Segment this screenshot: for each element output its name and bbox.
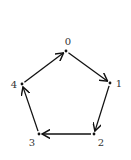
node-label: 0 xyxy=(65,36,71,47)
node-dot xyxy=(109,82,112,85)
edge-4-to-0 xyxy=(24,53,63,82)
node-label: 4 xyxy=(11,79,17,90)
nodes-group: 01234 xyxy=(11,36,122,148)
edge-3-to-4 xyxy=(23,87,38,131)
edges-group xyxy=(23,53,109,134)
node-2: 2 xyxy=(93,133,105,148)
node-4: 4 xyxy=(11,79,24,90)
node-1: 1 xyxy=(109,78,123,89)
node-label: 1 xyxy=(116,78,122,89)
edge-1-to-2 xyxy=(95,86,109,131)
node-dot xyxy=(38,133,41,136)
node-dot xyxy=(21,83,24,86)
node-dot xyxy=(65,50,68,53)
edge-0-to-1 xyxy=(68,53,107,81)
node-3: 3 xyxy=(29,133,41,148)
node-label: 2 xyxy=(98,137,104,148)
node-label: 3 xyxy=(29,137,35,148)
node-dot xyxy=(93,133,96,136)
node-0: 0 xyxy=(65,36,72,52)
graph-canvas: 01234 xyxy=(0,0,131,160)
